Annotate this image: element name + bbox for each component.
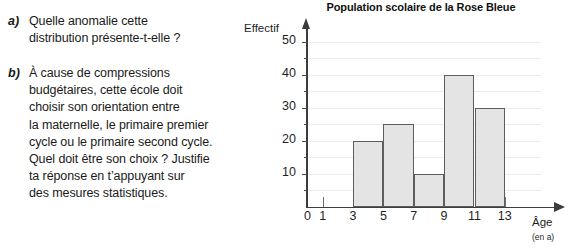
y-axis-label: 30 [256,99,296,113]
y-axis-label: 20 [256,132,296,146]
x-axis-line [306,207,556,209]
x-axis-title: Âge [532,216,552,228]
histogram-bar [353,141,383,207]
y-axis-tick [304,157,308,158]
question-b-marker: b) [8,65,20,82]
x-axis-label: 11 [463,209,487,223]
gridline [308,108,541,109]
y-axis-tick [304,91,308,92]
y-axis-title: Effectif [244,22,279,34]
y-axis-arrow-icon [302,18,310,29]
y-axis-tick [302,174,308,175]
histogram-bar [383,124,413,207]
x-axis-tick [505,197,506,208]
x-axis-label: 5 [371,209,395,223]
gridline [308,42,541,43]
gridline [308,91,541,92]
histogram-bar [475,108,505,207]
y-axis-tick [304,190,308,191]
exercise-page: a) Quelle anomalie cette distribution pr… [0,0,575,249]
x-axis-tick [323,197,324,208]
x-axis-unit: (en a) [532,232,554,242]
gridline [308,58,541,59]
plot-area: 10203040500135791113 [240,0,575,249]
y-axis-tick [304,124,308,125]
x-axis-label: 1 [311,209,335,223]
questions-panel: a) Quelle anomalie cette distribution pr… [0,0,240,249]
question-a: a) Quelle anomalie cette distribution pr… [8,13,234,47]
question-a-marker: a) [8,13,19,30]
y-axis-tick [302,108,308,109]
gridline [308,141,541,142]
histogram-bar [444,75,474,207]
question-b: b) À cause de compressions budgétaires, … [8,65,240,203]
x-axis-label: 7 [402,209,426,223]
y-axis-label: 40 [256,66,296,80]
gridline [308,75,541,76]
question-a-text: Quelle anomalie cette distribution prése… [29,13,234,47]
gridline [308,124,541,125]
x-axis-arrow-icon [554,202,565,212]
histogram-chart: Population scolaire de la Rose Bleue 102… [240,0,575,249]
y-axis-label: 10 [256,165,296,179]
y-axis-line [306,28,308,208]
x-axis-label: 13 [493,209,517,223]
x-axis-label: 9 [432,209,456,223]
question-b-text: À cause de compressions budgétaires, cet… [29,65,240,203]
gridline [308,157,541,158]
y-axis-label: 50 [256,33,296,47]
x-axis-label: 3 [341,209,365,223]
y-axis-tick [302,42,308,43]
y-axis-tick [302,75,308,76]
histogram-bar [414,174,444,207]
y-axis-tick [302,141,308,142]
y-axis-tick [304,58,308,59]
